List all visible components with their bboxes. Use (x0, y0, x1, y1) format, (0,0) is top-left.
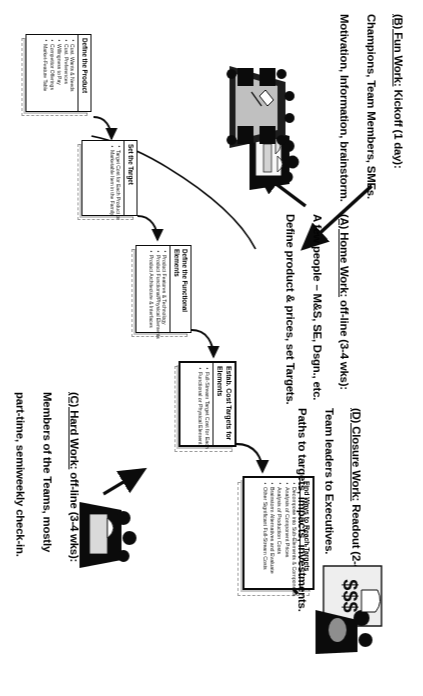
bullet-cont: Marketable Item in the Family (108, 145, 115, 213)
team-working-clipart (75, 498, 139, 572)
callout-line-1: (B) Fun Work: Kickoff (1 day): (390, 14, 403, 244)
diagram-canvas: Define the Product Cust. Wants & Needs C… (0, 0, 423, 696)
bullet: Other Significant Full-Stream Costs (261, 482, 268, 586)
box-bullet-list: Cust. Wants & Needs Cust. Preferences Wi… (39, 35, 77, 111)
box-bullet-list: Full-Stream Target Cost for Each Functio… (194, 363, 212, 445)
bullet-cont: Functional or Physical Element (196, 367, 203, 443)
callout-line-3: part-time, semiweekly check-in. (12, 392, 25, 642)
arrow-hard-work (103, 470, 143, 494)
bullet: Full-Stream Target Cost for Each (203, 367, 210, 443)
bullet: Cust. Preferences (62, 39, 69, 109)
callout-lead: (B) Fun Work: (392, 14, 404, 86)
diagram-canvas-rotation: Define the Product Cust. Wants & Needs C… (0, 0, 423, 696)
connector-costtargets-to-findways (236, 444, 262, 472)
box-title: Set the Target (124, 141, 137, 215)
callout-fun-work: (B) Fun Work: Kickoff (1 day): Champions… (323, 14, 417, 244)
box-estab-cost-targets-for-elements[interactable]: Estab. Cost Targets for Elements Full-St… (178, 361, 236, 447)
bullet: Competitor Offerings (48, 39, 55, 109)
callout-rest: Kickoff (1 day): (392, 86, 404, 168)
bullet: Target Cost for Each Product or (115, 145, 122, 213)
callout-line-3: Motivation, Information, brainstorm. (336, 14, 349, 244)
box-define-the-functional-elements[interactable]: Define the Functional Elements Product F… (135, 245, 191, 333)
connector-functional-to-costtargets (191, 330, 213, 357)
bullet: Brainstorm Alternatives and Evaluate (268, 482, 275, 586)
callout-line-2: Champions, Team Members, SMEs. (363, 14, 376, 244)
box-bullet-list: Target Cost for Each Product or Marketab… (106, 141, 124, 215)
box-define-the-product[interactable]: Define the Product Cust. Wants & Needs C… (25, 34, 91, 112)
callout-lead: (C) Hard Work: (68, 392, 80, 469)
bullet: Product Functional/Physical Elements (154, 250, 161, 330)
callout-rest: off-line (3-4 wks): (338, 297, 350, 390)
connector-define-to-settarget (93, 117, 111, 139)
box-title: Define the Functional Elements (170, 246, 191, 332)
large-conference-table-clipart (221, 56, 295, 154)
bullet: Product Features & Technology (161, 250, 168, 330)
bullet: Cust. Wants & Needs (69, 39, 76, 109)
callout-lead: (D) Closure Work: (350, 408, 362, 501)
box-bullet-list: Product Features & Technology Product Fu… (145, 246, 169, 332)
svg-text:$$$: $$$ (339, 579, 361, 612)
callout-line-3: Paths to targets, impacts, investments. (294, 408, 307, 680)
box-title: Define the Product (78, 35, 91, 111)
box-title: Estab. Cost Targets for Elements (212, 363, 234, 445)
callout-line-2: Members of the Teams, mostly (39, 392, 52, 642)
bullet: Willingness to Pay (55, 39, 62, 109)
box-set-the-target[interactable]: Set the Target Target Cost for Each Prod… (81, 140, 137, 216)
bullet: Product Architecture & Interfaces (147, 250, 154, 330)
executives-with-money-clipart: $$$ (309, 560, 387, 656)
connector-settarget-to-functional (137, 216, 157, 240)
bullet: Market-Feature Table (41, 39, 48, 109)
